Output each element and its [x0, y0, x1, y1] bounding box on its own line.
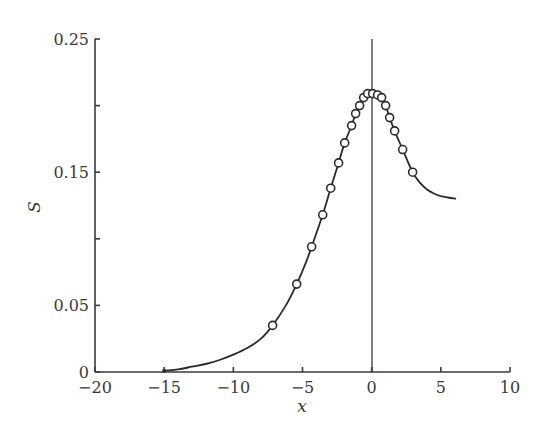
data-point-marker	[409, 168, 417, 176]
data-point-marker	[293, 280, 301, 288]
data-point-marker	[319, 211, 327, 219]
data-point-marker	[335, 159, 343, 167]
data-point-marker	[386, 114, 394, 122]
x-tick-label: −5	[291, 378, 315, 397]
curve-start-dot	[162, 369, 166, 373]
x-tick-label: 5	[436, 378, 446, 397]
data-point-marker	[352, 110, 360, 118]
x-axis-title: x	[297, 396, 307, 416]
y-tick-label: 0.25	[53, 30, 89, 49]
data-point-marker	[327, 184, 335, 192]
data-point-marker	[341, 139, 349, 147]
y-axis-title: S	[24, 201, 44, 213]
x-tick-label: −15	[147, 378, 181, 397]
data-point-marker	[399, 146, 407, 154]
x-tick-label: 0	[367, 378, 377, 397]
data-point-marker	[269, 321, 277, 329]
data-point-marker	[348, 122, 356, 130]
y-tick-label: 0	[79, 363, 89, 382]
data-point-marker	[378, 94, 386, 102]
y-tick-label: 0.15	[53, 163, 89, 182]
chart: −20−15−10−50510 00.050.150.25 x S	[0, 0, 545, 441]
data-point-marker	[391, 127, 399, 135]
axes: −20−15−10−50510 00.050.150.25	[53, 30, 520, 397]
series-curve	[164, 93, 456, 370]
data-point-marker	[356, 102, 364, 110]
x-tick-label: 10	[500, 378, 520, 397]
y-ticks: 00.050.150.25	[53, 30, 100, 382]
plot-area	[162, 90, 456, 373]
data-point-marker	[308, 243, 316, 251]
data-point-marker	[382, 102, 390, 110]
y-tick-label: 0.05	[53, 296, 89, 315]
x-tick-label: −10	[216, 378, 250, 397]
